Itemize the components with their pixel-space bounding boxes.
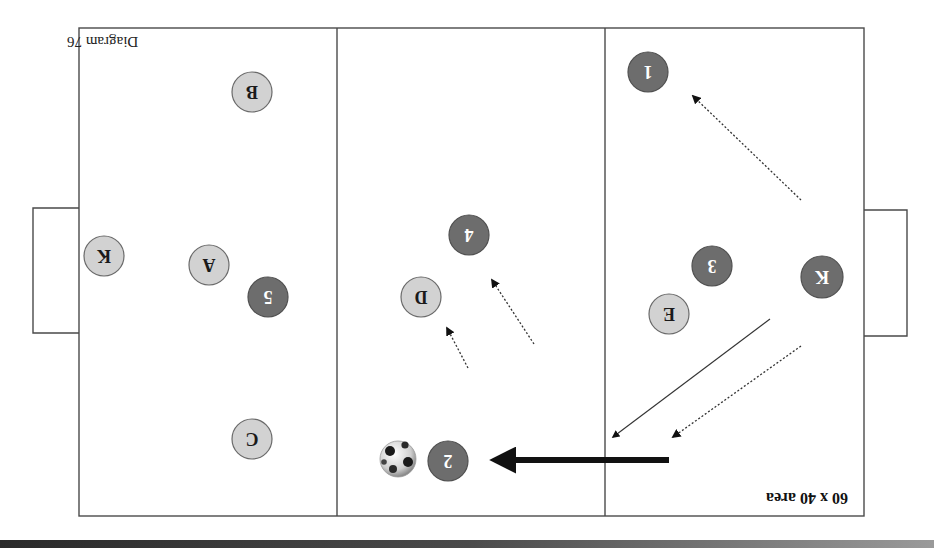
pass-arrow-k [613,319,770,437]
player-attacker-2: 2 [428,441,468,481]
player-attacker-keeper: K [801,256,843,298]
player-attacker-5: 5 [248,277,288,317]
svg-text:C: C [246,429,259,449]
player-attacker-3: 3 [692,246,732,286]
soccer-ball-icon [380,441,416,477]
goal-left [33,208,79,333]
svg-text:1: 1 [644,62,653,82]
player-defender-c: C [232,419,272,459]
player-defender-a: A [189,245,229,285]
svg-text:2: 2 [444,451,453,471]
svg-text:4: 4 [465,225,474,245]
goal-right [864,210,907,336]
player-attacker-1: 1 [628,52,668,92]
svg-text:3: 3 [708,256,717,276]
svg-text:B: B [246,82,258,102]
player-defender-e: E [649,294,689,334]
run-arrow-to-d [447,328,468,368]
svg-text:E: E [663,304,675,324]
player-defender-b: B [232,72,272,112]
player-attacker-4: 4 [449,215,489,255]
run-arrow-to-1 [693,96,801,200]
svg-text:D: D [415,287,428,307]
field [33,28,907,516]
run-arrow-to-4 [492,280,534,344]
player-defender-d: D [401,277,441,317]
svg-text:A: A [203,255,216,275]
player-defender-keeper: K [84,236,124,276]
bottom-border [0,540,934,548]
svg-text:5: 5 [264,287,273,307]
svg-text:K: K [97,246,111,266]
svg-text:K: K [815,267,829,287]
run-arrow-k [673,346,801,437]
diagram-caption: Diagram 76 [67,34,139,50]
tactics-diagram: 60 x 40 area Diagram 76 1 3 K 4 5 [0,0,934,548]
movement-arrows [447,96,801,460]
defenders: B A K D E C [84,72,689,459]
area-title: 60 x 40 area [766,490,848,507]
